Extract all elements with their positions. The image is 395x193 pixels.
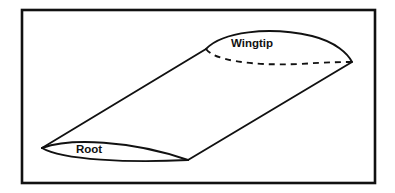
figure-container: Wingtip Root [0,0,395,193]
wing-diagram-svg: Wingtip Root [0,0,395,193]
root-label: Root [76,143,102,155]
wingtip-label: Wingtip [231,37,273,49]
